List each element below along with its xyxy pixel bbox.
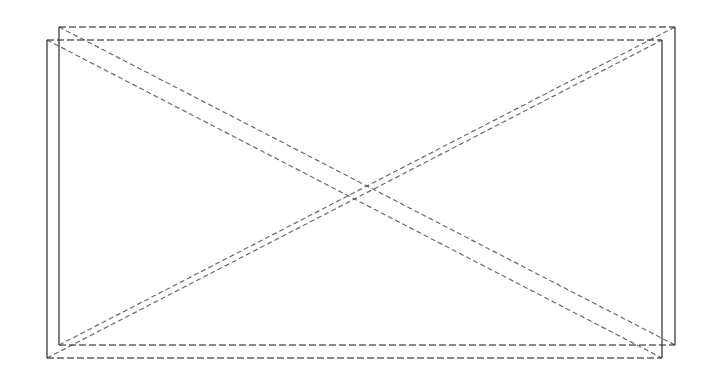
rectangle-a [59,27,675,345]
shapes-layer [47,27,675,358]
rectangle-a-diagonal-up [59,27,675,345]
rectangle-b [47,40,662,358]
crossed-rectangles-diagram [0,0,712,378]
